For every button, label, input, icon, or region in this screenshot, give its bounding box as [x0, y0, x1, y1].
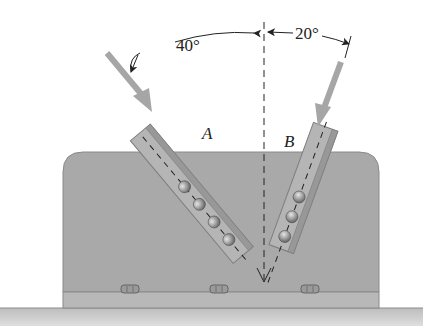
base-strip — [63, 292, 379, 308]
force-arrow-a — [107, 53, 152, 112]
diagram-svg — [0, 0, 423, 326]
member-label-b: B — [284, 132, 294, 152]
angle-label-20: 20° — [295, 24, 319, 44]
base-bolt-icon — [301, 285, 319, 293]
base-bolt-icon — [121, 285, 139, 293]
extension-tick — [345, 36, 351, 58]
force-arrow-b — [315, 62, 341, 127]
base-bolt-icon — [210, 285, 228, 293]
ground — [0, 308, 423, 326]
angle-label-40: 40° — [176, 36, 200, 56]
member-label-a: A — [202, 124, 212, 144]
diagram-canvas: 40° 20° A B — [0, 0, 423, 326]
